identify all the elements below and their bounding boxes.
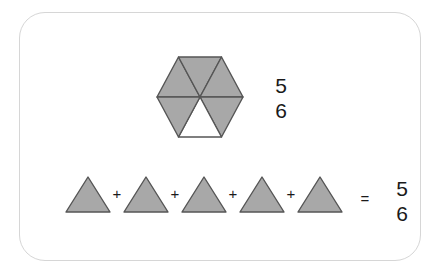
result-fraction: 5 6 xyxy=(385,178,419,224)
hexagon-figure xyxy=(157,57,243,137)
equation-triangle-3 xyxy=(182,177,226,212)
equation-triangle-1 xyxy=(66,177,110,212)
hexagon-fraction-denominator: 6 xyxy=(275,100,287,121)
equation-triangle-2 xyxy=(124,177,168,212)
plus-operator-4: + xyxy=(283,186,299,202)
diagram-canvas: + + + + = 5 6 5 6 xyxy=(0,0,442,275)
plus-operator-3: + xyxy=(225,186,241,202)
shapes-layer xyxy=(0,0,442,275)
plus-operator-1: + xyxy=(109,186,125,202)
plus-operator-2: + xyxy=(167,186,183,202)
result-fraction-numerator: 5 xyxy=(396,178,408,199)
equals-operator: = xyxy=(357,191,373,207)
hexagon-fraction: 5 6 xyxy=(264,75,298,121)
equation-triangle-4 xyxy=(240,177,284,212)
hexagon-fraction-numerator: 5 xyxy=(275,75,287,96)
equation-triangles xyxy=(66,177,342,212)
equation-triangle-5 xyxy=(298,177,342,212)
result-fraction-denominator: 6 xyxy=(396,203,408,224)
